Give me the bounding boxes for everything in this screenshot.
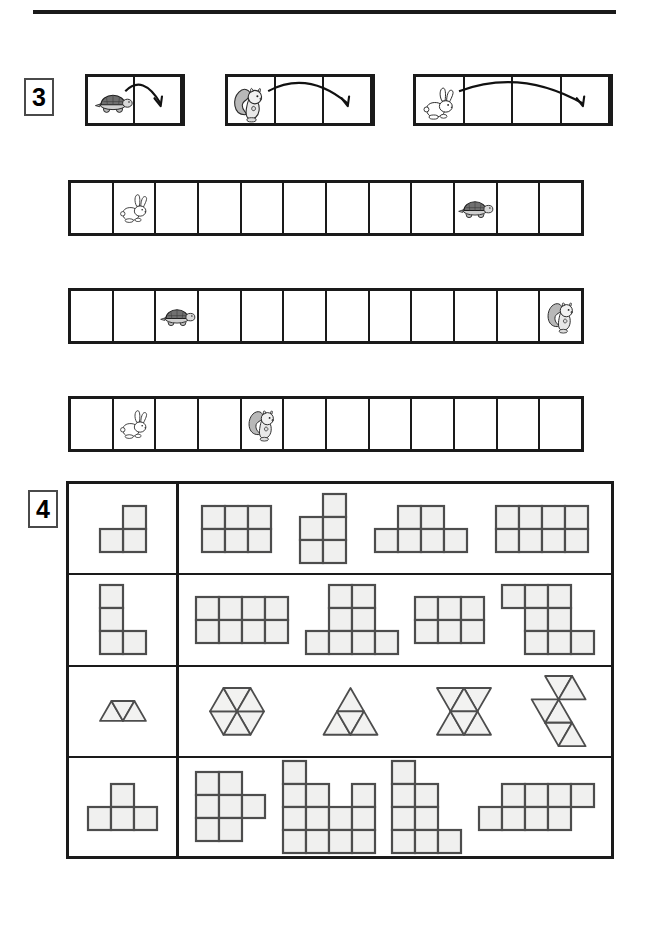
shape-slot[interactable] [199, 503, 274, 555]
strip-cell[interactable] [498, 291, 541, 341]
rect-3x2 [412, 594, 487, 646]
shape-slot[interactable] [297, 491, 349, 566]
exercise-number-4: 4 [28, 490, 58, 528]
strip-cell[interactable] [156, 183, 199, 233]
shape-slot[interactable] [534, 673, 583, 749]
strip-cell[interactable] [242, 399, 285, 449]
strip-cell[interactable] [327, 399, 370, 449]
strip-cell[interactable] [71, 399, 114, 449]
strip-cell[interactable] [540, 183, 581, 233]
legend-cell [324, 77, 372, 123]
strip-cell[interactable] [412, 399, 455, 449]
zigzag-strip [534, 673, 583, 749]
rabbit-icon [117, 191, 151, 225]
strip-cell[interactable] [498, 183, 541, 233]
rabbit-icon [420, 84, 458, 122]
z-octomino [499, 582, 597, 657]
strip-cell[interactable] [114, 399, 157, 449]
strip-cell[interactable] [114, 183, 157, 233]
legend-box-squirrel [225, 74, 375, 126]
strip-cell[interactable] [412, 291, 455, 341]
shape-row [179, 758, 611, 856]
strip-cell[interactable] [156, 399, 199, 449]
row-l-tetromino [69, 575, 611, 666]
squirrel-icon [545, 297, 577, 335]
strip-cell[interactable] [498, 399, 541, 449]
number-strip-3[interactable] [68, 396, 584, 452]
strip-cell[interactable] [540, 291, 581, 341]
number-strip-1[interactable] [68, 180, 584, 236]
rect-3x2 [199, 503, 274, 555]
trapezoid-3-triangles [97, 698, 149, 724]
prototype-cell [69, 758, 179, 856]
legend-box-rabbit [413, 74, 613, 126]
strip-cell[interactable] [284, 183, 327, 233]
strip-cell[interactable] [284, 291, 327, 341]
triangle-9-triangles [307, 685, 394, 738]
strip-cell[interactable] [284, 399, 327, 449]
t-tetromino [85, 781, 160, 833]
turtle-icon [456, 195, 494, 221]
squirrel-icon [246, 405, 278, 443]
rect-4x2 [193, 594, 291, 646]
shape-row [179, 484, 611, 573]
legend-cell [88, 77, 135, 123]
turtle-icon [93, 88, 133, 116]
legend-cell [276, 77, 324, 123]
prototype-cell [69, 484, 179, 573]
row-l-tromino [69, 484, 611, 575]
number-strip-2[interactable] [68, 288, 584, 344]
strip-cell[interactable] [370, 183, 413, 233]
strip-cell[interactable] [370, 399, 413, 449]
squirrel-icon [232, 82, 266, 124]
legend-cell [135, 77, 182, 123]
strip-cell[interactable] [540, 399, 581, 449]
strip-cell[interactable] [455, 183, 498, 233]
top-rule [33, 10, 616, 14]
strip-cell[interactable] [412, 183, 455, 233]
prototype-cell [69, 667, 179, 756]
shape-slot[interactable] [389, 758, 464, 856]
strip-cell[interactable] [199, 291, 242, 341]
rect-4x2 [493, 503, 591, 555]
hexagon-6-triangles [207, 685, 267, 738]
task4-shape-table [66, 481, 614, 859]
shape-slot[interactable] [499, 582, 597, 657]
shape-slot[interactable] [307, 685, 394, 738]
legend-cell [416, 77, 465, 123]
strip-cell[interactable] [455, 399, 498, 449]
strip-cell[interactable] [199, 399, 242, 449]
legend-box-turtle [85, 74, 185, 126]
strip-cell[interactable] [455, 291, 498, 341]
legend-cell [513, 77, 562, 123]
strip-cell[interactable] [71, 291, 114, 341]
shape-slot[interactable] [303, 582, 401, 657]
u-shape-large [280, 758, 378, 856]
row-t-tetromino [69, 758, 611, 856]
legend-cell [562, 77, 611, 123]
shape-slot[interactable] [372, 503, 470, 555]
shape-slot[interactable] [207, 685, 267, 738]
strip-cell[interactable] [327, 183, 370, 233]
strip-cell[interactable] [199, 183, 242, 233]
shape-slot[interactable] [434, 685, 494, 738]
turtle-icon [158, 303, 196, 329]
shape-slot[interactable] [476, 781, 597, 833]
strip-cell[interactable] [242, 183, 285, 233]
shape-slot[interactable] [493, 503, 591, 555]
strip-cell[interactable] [71, 183, 114, 233]
strip-cell[interactable] [156, 291, 199, 341]
l-tromino [97, 503, 149, 555]
l-tetromino [97, 582, 149, 657]
hourglass-bowtie [434, 685, 494, 738]
shape-slot[interactable] [193, 594, 291, 646]
strip-cell[interactable] [242, 291, 285, 341]
strip-cell[interactable] [370, 291, 413, 341]
shape-slot[interactable] [193, 769, 268, 844]
strip-cell[interactable] [114, 291, 157, 341]
strip-cell[interactable] [327, 291, 370, 341]
shape-slot[interactable] [412, 594, 487, 646]
p-hexomino [372, 503, 470, 555]
s-pentomino [297, 491, 349, 566]
shape-slot[interactable] [280, 758, 378, 856]
